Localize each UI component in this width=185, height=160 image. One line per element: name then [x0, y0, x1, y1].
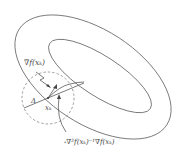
gradient-arrowhead-icon	[53, 84, 57, 89]
current-point-marker	[47, 97, 49, 99]
point-label: xₖ	[45, 104, 52, 112]
newton-step-label: -∇²f(xₖ)⁻¹∇f(xₖ)	[64, 138, 115, 146]
radius-label: Δ	[30, 97, 36, 105]
newton-arrowhead-icon	[57, 94, 61, 99]
trust-region-diagram: ∇f(xₖ) Δ xₖ -∇²f(xₖ)⁻¹∇f(xₖ)	[0, 0, 185, 160]
gradient-label: ∇f(xₖ)	[24, 58, 45, 67]
outer-contour-ellipse	[0, 0, 185, 160]
inner-contour-ellipse	[39, 27, 161, 126]
